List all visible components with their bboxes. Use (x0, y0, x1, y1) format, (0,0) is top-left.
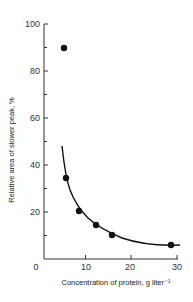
y-tick-label: 100 (25, 19, 40, 29)
data-point (76, 208, 82, 214)
y-tick-label: 40 (30, 160, 40, 170)
y-tick-label: 60 (30, 113, 40, 123)
x-axis: 0 10 20 30 (33, 255, 182, 272)
y-tick-label: 20 (30, 207, 40, 217)
data-point (168, 242, 174, 248)
chart: 100 80 60 40 20 0 10 20 30 Concentration… (0, 0, 193, 302)
x-tick-label: 0 (33, 262, 38, 272)
y-axis-label: Relative area of slower peak, % (7, 97, 16, 203)
data-point (61, 45, 67, 51)
data-point (93, 222, 99, 228)
y-tick-label: 80 (30, 66, 40, 76)
x-tick-label: 20 (125, 262, 135, 272)
fitted-curve (62, 146, 180, 245)
x-axis-label: Concentration of protein, g liter⁻¹ (61, 278, 171, 287)
x-tick-label: 10 (81, 262, 91, 272)
y-axis: 100 80 60 40 20 (25, 19, 48, 259)
data-points (61, 45, 174, 248)
data-point (109, 232, 115, 238)
data-point (63, 175, 69, 181)
x-tick-label: 30 (172, 262, 182, 272)
